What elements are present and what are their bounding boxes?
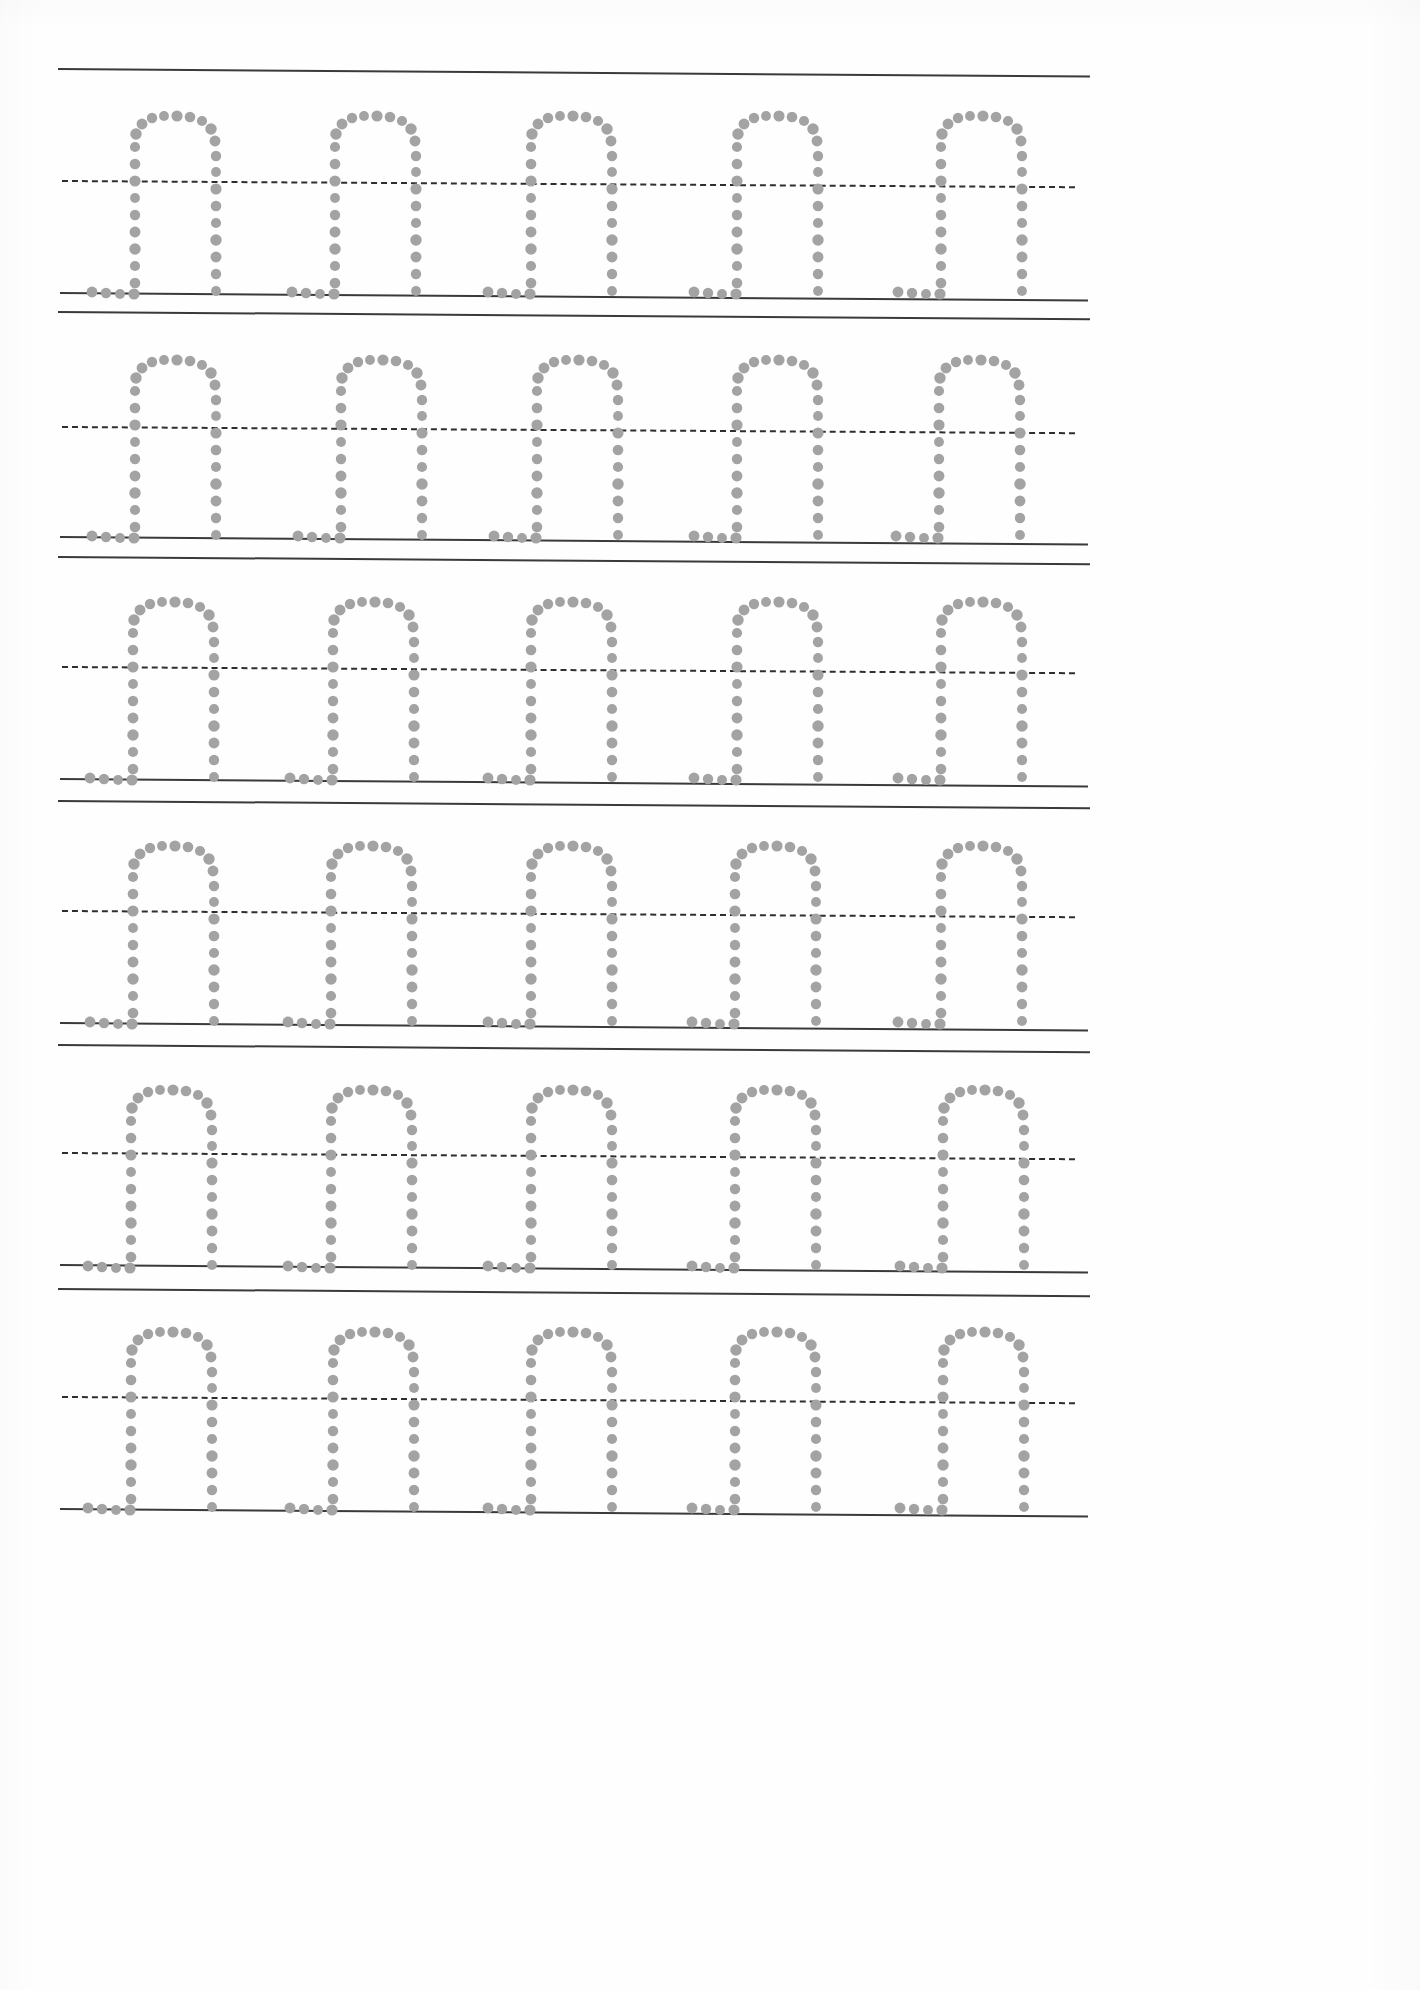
trace-dot [703, 288, 713, 298]
trace-dot [936, 679, 946, 689]
trace-dot [1019, 1383, 1029, 1393]
trace-dot [369, 596, 380, 607]
trace-dot [606, 1157, 617, 1168]
trace-dot [526, 614, 537, 625]
trace-dot [607, 1417, 618, 1428]
trace-dot [729, 905, 740, 916]
trace-dot [613, 530, 623, 540]
trace-dot [785, 842, 796, 853]
trace-dot [810, 1450, 821, 1461]
trace-dot [807, 609, 818, 620]
trace-dot [955, 1329, 965, 1339]
trace-dot [813, 286, 823, 296]
trace-dot [208, 669, 219, 680]
trace-dot [343, 1087, 353, 1097]
trace-dot [525, 1459, 536, 1470]
trace-dot [730, 1494, 741, 1505]
trace-dot [411, 201, 422, 212]
trace-dot [133, 1335, 144, 1346]
trace-dot [127, 905, 138, 916]
trace-dot [606, 669, 617, 680]
trace-dot [606, 1450, 617, 1461]
trace-dot [810, 866, 821, 877]
trace-dot [813, 637, 823, 647]
trace-dot [525, 905, 536, 916]
trace-dot [130, 142, 140, 152]
trace-letter-n [890, 1082, 1068, 1278]
trace-dot [730, 991, 740, 1001]
trace-dot [130, 403, 141, 414]
trace-dot [531, 419, 542, 430]
trace-dot [326, 940, 336, 950]
trace-dot [130, 210, 140, 220]
trace-dot [411, 269, 421, 279]
trace-dot [935, 175, 946, 186]
trace-dot [567, 1084, 578, 1095]
trace-dot [401, 853, 412, 864]
trace-dot [526, 679, 536, 689]
trace-dot [787, 598, 798, 609]
trace-dot [811, 948, 821, 958]
trace-dot [326, 923, 336, 933]
trace-dot [313, 1505, 323, 1515]
trace-dot [128, 858, 139, 869]
trace-dot [128, 764, 139, 775]
trace-dot [130, 159, 141, 170]
trace-dot [607, 1016, 617, 1026]
trace-dot [701, 1018, 711, 1028]
trace-dot [126, 1409, 136, 1419]
trace-dot [607, 738, 618, 749]
trace-dot [409, 1417, 420, 1428]
trace-dot [732, 193, 742, 203]
trace-dot [210, 136, 221, 147]
trace-letter-n [82, 108, 260, 304]
trace-dot [936, 614, 947, 625]
trace-dot [759, 1327, 769, 1337]
trace-dot [337, 119, 348, 130]
worksheet-page [0, 0, 1420, 1990]
trace-dot [407, 897, 417, 907]
trace-dot [730, 1344, 741, 1355]
trace-dot [335, 1335, 346, 1346]
trace-dot [813, 772, 823, 782]
trace-dot [526, 193, 536, 203]
trace-dot [729, 1459, 740, 1470]
trace-dot [211, 530, 221, 540]
trace-dot [532, 471, 543, 482]
trace-dot [407, 1260, 417, 1270]
trace-dot [167, 1326, 178, 1337]
trace-dot [606, 1352, 617, 1363]
trace-dot [919, 533, 929, 543]
trace-dot [935, 973, 946, 984]
trace-dot [1017, 999, 1027, 1009]
trace-dot [689, 773, 700, 784]
trace-dot [126, 1344, 137, 1355]
trace-dot [607, 1485, 617, 1495]
trace-dot [732, 764, 743, 775]
trace-dot [587, 356, 598, 367]
trace-dot [1018, 1157, 1029, 1168]
trace-dot [811, 1367, 821, 1377]
trace-dot [403, 609, 414, 620]
trace-dot [807, 367, 818, 378]
trace-dot [1016, 720, 1027, 731]
trace-dot [128, 991, 138, 1001]
trace-dot [328, 747, 338, 757]
trace-dot [336, 505, 346, 515]
trace-dot [813, 395, 823, 405]
trace-dot [953, 843, 963, 853]
trace-dot [785, 1328, 796, 1339]
trace-dot [1016, 964, 1027, 975]
trace-dot [730, 1252, 741, 1263]
trace-dot [407, 948, 417, 958]
trace-dot [381, 842, 392, 853]
trace-dot [526, 210, 536, 220]
trace-dot [327, 729, 338, 740]
trace-dot [613, 513, 623, 523]
trace-dot [130, 386, 140, 396]
trace-dot [411, 252, 422, 263]
trace-dot [126, 1426, 136, 1436]
trace-dot [1016, 913, 1027, 924]
trace-dot [1016, 669, 1027, 680]
trace-dot [953, 599, 963, 609]
